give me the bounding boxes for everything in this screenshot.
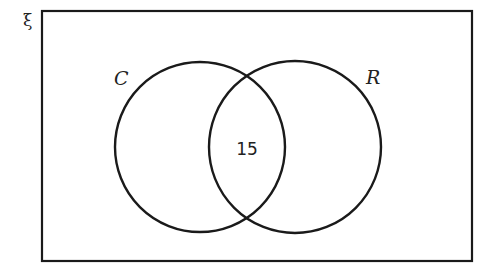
set-r-circle: [209, 61, 381, 233]
intersection-value: 15: [236, 139, 258, 159]
universal-set-symbol: ξ: [23, 10, 32, 30]
set-r-label: R: [365, 66, 380, 88]
venn-diagram: ξ C R 15: [0, 0, 495, 280]
set-c-label: C: [114, 67, 129, 89]
set-c-circle: [115, 62, 285, 232]
